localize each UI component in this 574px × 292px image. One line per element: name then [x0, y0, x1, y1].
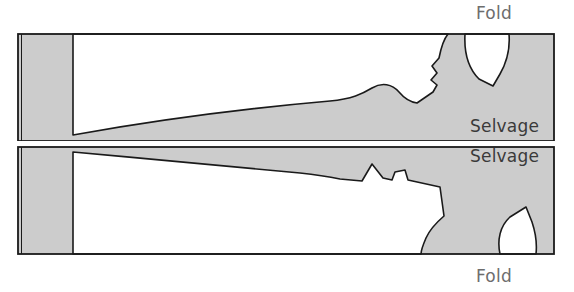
fold-label-bottom: Fold: [476, 268, 512, 285]
selvage-label-top: Selvage: [470, 118, 539, 135]
selvage-label-bottom: Selvage: [470, 148, 539, 165]
fabric-layout-diagram: Fold Selvage Selvage Fold: [0, 0, 574, 292]
fold-label-top: Fold: [476, 5, 512, 22]
